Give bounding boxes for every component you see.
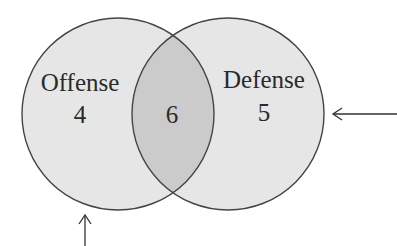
defense-label: Defense [223, 66, 305, 93]
intersection-count: 6 [166, 101, 179, 128]
arrow-left-icon [333, 108, 397, 120]
defense-count: 5 [258, 99, 271, 126]
arrow-up-icon [79, 215, 91, 246]
venn-diagram: Offense 4 6 Defense 5 [0, 0, 397, 246]
offense-count: 4 [74, 101, 87, 128]
offense-label: Offense [41, 69, 120, 96]
